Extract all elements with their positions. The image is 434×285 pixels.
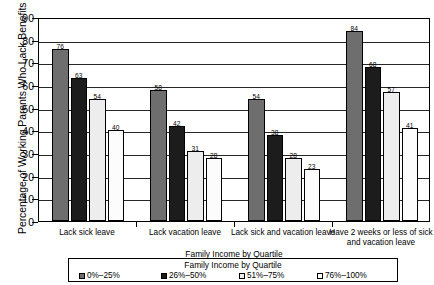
- bar: [71, 78, 88, 221]
- x-axis-category-label: Lack sick and vacation leave: [227, 228, 339, 238]
- y-axis-tick-label: 70: [6, 58, 34, 68]
- bar-value-label: 38: [263, 129, 288, 136]
- bar: [169, 126, 186, 221]
- legend-title: Family Income by Quartile: [69, 260, 397, 270]
- bar-value-label: 40: [104, 124, 129, 131]
- legend-swatch: [79, 273, 85, 279]
- x-axis-category-label: Have 2 weeks or less of sick and vacatio…: [325, 228, 434, 247]
- bar-value-label: 63: [67, 72, 92, 79]
- legend-label: 76%–100%: [325, 271, 367, 280]
- bar-value-label: 54: [85, 93, 110, 100]
- bar-value-label: 57: [379, 86, 404, 93]
- legend-swatch: [317, 273, 323, 279]
- bar: [150, 90, 167, 221]
- legend-swatch: [161, 273, 167, 279]
- legend-item: 76%–100%: [317, 271, 367, 281]
- y-axis-tick-label: 30: [6, 149, 34, 159]
- bar-value-label: 41: [398, 122, 423, 129]
- y-axis-tick-label: 0: [6, 217, 34, 227]
- legend-item: 26%–50%: [161, 271, 206, 281]
- bar: [402, 128, 419, 221]
- bar: [248, 99, 265, 221]
- legend-label: 51%–75%: [247, 271, 284, 280]
- x-axis-tick-mark: [234, 222, 235, 227]
- bar: [383, 92, 400, 221]
- x-axis-tick-mark: [332, 222, 333, 227]
- bar-chart: Percentage of Working Parents Who Lack B…: [0, 0, 434, 285]
- bar: [346, 31, 363, 221]
- bar-value-label: 54: [244, 93, 269, 100]
- bar: [89, 99, 106, 221]
- bar: [206, 158, 223, 221]
- bar: [187, 151, 204, 221]
- bar: [108, 130, 125, 221]
- plot-area: 76635440584231285438282384685741: [38, 18, 430, 222]
- y-axis-tick-label: 90: [6, 13, 34, 23]
- legend-label: 0%–25%: [87, 271, 120, 280]
- bar-value-label: 76: [48, 43, 73, 50]
- y-axis-tick-label: 40: [6, 126, 34, 136]
- x-axis-tick-mark: [136, 222, 137, 227]
- bar-value-label: 58: [146, 84, 171, 91]
- y-axis-tick-label: 80: [6, 36, 34, 46]
- bar: [304, 169, 321, 221]
- y-axis-tick-label: 10: [6, 194, 34, 204]
- y-axis-tick-label: 60: [6, 81, 34, 91]
- bar-value-label: 84: [342, 25, 367, 32]
- legend: Family Income by Quartile 0%–25%26%–50%5…: [68, 258, 398, 282]
- legend-item: 51%–75%: [239, 271, 284, 281]
- legend-label: 26%–50%: [169, 271, 206, 280]
- legend-item: 0%–25%: [79, 271, 120, 281]
- bar-value-label: 28: [202, 152, 227, 159]
- y-axis-tick-label: 50: [6, 104, 34, 114]
- x-axis-category-label: Lack vacation leave: [129, 228, 241, 238]
- bar-value-label: 68: [361, 61, 386, 68]
- legend-swatch: [239, 273, 245, 279]
- x-axis-category-label: Lack sick leave: [31, 228, 143, 238]
- bar-value-label: 28: [281, 152, 306, 159]
- y-axis-tick-label: 20: [6, 172, 34, 182]
- gridline: [39, 42, 429, 43]
- y-axis-tick-mark: [32, 222, 38, 223]
- bar-value-label: 23: [300, 163, 325, 170]
- bar: [267, 135, 284, 221]
- bar-value-label: 42: [165, 120, 190, 127]
